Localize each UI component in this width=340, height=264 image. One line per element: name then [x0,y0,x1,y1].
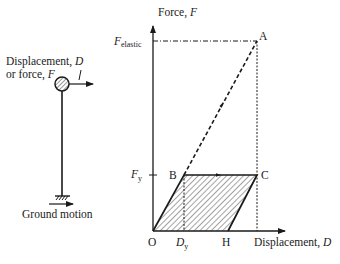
mass-icon [55,77,69,91]
input-label-line2: or force, F [6,68,56,81]
structure-model: Displacement, D or force, F Ground motio… [6,55,93,220]
elastic-plastic-diagram: Displacement, D or force, F Ground motio… [0,0,340,264]
ground-motion-label: Ground motion [22,208,93,220]
point-o-label: O [148,236,156,248]
point-a-label: A [259,30,268,42]
point-b-label: B [169,169,177,181]
point-h-label: H [222,236,230,248]
y-axis-label: Force, F [158,6,198,19]
d-y-label: Dy [175,236,188,251]
f-elastic-label: Felastic [113,35,142,49]
input-label-line1: Displacement, D [6,55,84,68]
point-c-label: C [261,169,269,181]
f-y-label: Fy [130,168,142,183]
elastic-dashed-line [184,41,257,175]
force-displacement-plot: Force, F Felastic Fy A B C O H Dy Displa… [113,6,332,251]
leader-line [79,70,81,80]
x-axis-label: Displacement, D [254,236,332,249]
